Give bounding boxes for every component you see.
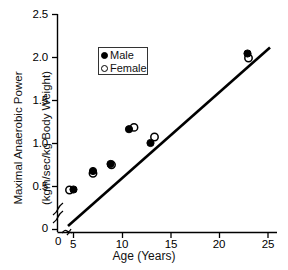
data-point-male bbox=[70, 186, 77, 193]
legend-label-male: Male bbox=[110, 49, 134, 62]
y-axis-title: Maximal Anaerobic Power (kgm/sec/kg Body… bbox=[0, 43, 67, 233]
data-point-male bbox=[147, 139, 154, 146]
legend-item-male: Male bbox=[101, 49, 145, 62]
y-axis-title-line1: Maximal Anaerobic Power bbox=[11, 43, 25, 233]
data-point-male bbox=[89, 167, 96, 174]
data-point-male bbox=[244, 50, 251, 57]
legend-label-female: Female bbox=[110, 62, 147, 75]
y-tick-label: 2.5 bbox=[18, 8, 48, 20]
x-axis-title: Age (Years) bbox=[0, 249, 288, 263]
chart-figure: 2.5 2.0 1.5 1.0 0.5 0 0 5 10 15 20 25 Ma… bbox=[0, 0, 288, 270]
data-point-male bbox=[125, 126, 132, 133]
open-circle-icon bbox=[101, 65, 108, 72]
data-point-male bbox=[107, 160, 114, 167]
legend-item-female: Female bbox=[101, 62, 145, 75]
y-axis-title-line2: (kgm/sec/kg Body Weight) bbox=[39, 43, 53, 233]
chart-legend: Male Female bbox=[98, 47, 148, 75]
filled-circle-icon bbox=[101, 52, 108, 59]
